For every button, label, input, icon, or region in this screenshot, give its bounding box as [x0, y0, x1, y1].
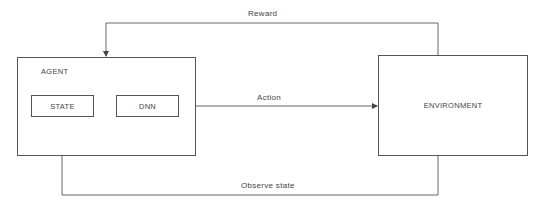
reward-arrow: [106, 23, 438, 56]
dnn-box: DNN: [116, 95, 179, 117]
observe-state-label: Observe state: [241, 181, 295, 190]
action-label: Action: [257, 93, 281, 102]
environment-label: ENVIRONMENT: [424, 101, 483, 110]
state-box: STATE: [31, 95, 94, 117]
dnn-label: DNN: [139, 102, 156, 111]
state-label: STATE: [50, 102, 75, 111]
environment-box: ENVIRONMENT: [378, 55, 528, 156]
reward-label: Reward: [248, 9, 277, 18]
agent-label: AGENT: [41, 67, 68, 76]
